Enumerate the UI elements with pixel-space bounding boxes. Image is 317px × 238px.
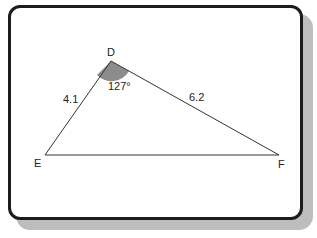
vertex-label-d: D: [107, 46, 115, 58]
angle-label-d: 127°: [108, 80, 131, 92]
triangle-def: [45, 61, 279, 155]
vertex-label-f: F: [278, 158, 285, 170]
side-label-df: 6.2: [189, 91, 204, 103]
vertex-label-e: E: [34, 157, 41, 169]
side-label-de: 4.1: [63, 93, 78, 105]
angle-d-marker: [97, 61, 129, 81]
triangle-figure: [0, 0, 317, 238]
